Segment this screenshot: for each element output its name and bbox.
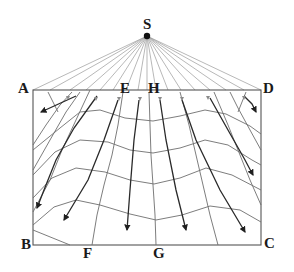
label-f: F <box>83 246 92 261</box>
label-g: G <box>153 246 165 261</box>
wavefront-arcs <box>33 92 261 245</box>
label-b: B <box>21 237 31 252</box>
radial-grid-lines <box>33 90 261 245</box>
label-s: S <box>143 17 151 32</box>
label-c: C <box>264 236 275 251</box>
rectangle-abcd <box>33 90 261 245</box>
source-rays <box>33 36 261 90</box>
ray-arrow-marks <box>66 96 246 101</box>
label-a: A <box>18 81 29 96</box>
streamlines <box>37 96 256 232</box>
source-point-s <box>144 33 150 39</box>
label-d: D <box>263 81 274 96</box>
label-e: E <box>120 81 130 96</box>
diagram-canvas <box>0 0 294 272</box>
label-h: H <box>148 81 160 96</box>
